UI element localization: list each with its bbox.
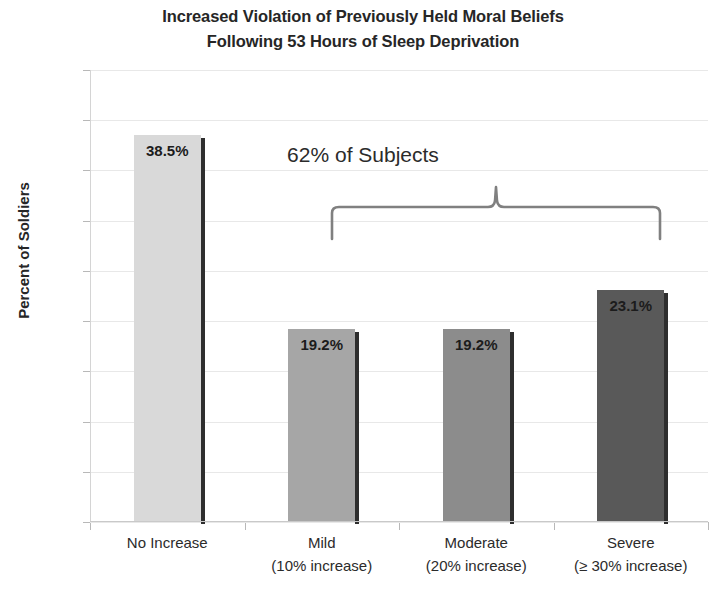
gridline [90,522,708,523]
bar-value-label: 19.2% [288,336,355,353]
bar-fill [597,290,664,522]
y-axis-tick-mark [83,321,90,322]
x-axis-category-label: Mild(10% increase) [245,531,400,577]
category-name: No Increase [127,534,208,551]
x-axis-tick-mark [554,522,555,530]
y-axis-tick-mark [83,522,90,523]
y-axis-tick-mark [83,221,90,222]
y-axis-tick-mark [83,271,90,272]
y-axis-line [90,70,91,522]
x-axis-category-label: Moderate(20% increase) [399,531,554,577]
category-name: Moderate [445,534,508,551]
bar-fill [443,329,510,522]
x-axis-tick-mark [245,522,246,530]
chart-title-line-1: Increased Violation of Previously Held M… [162,7,564,25]
y-axis-tick-mark [83,472,90,473]
annotation-label: 62% of Subjects [0,143,726,167]
bar[interactable]: 38.5% [134,135,201,522]
bar[interactable]: 19.2% [443,329,510,522]
gridline [90,120,708,121]
category-sublabel: (10% increase) [245,554,400,577]
bar-value-label: 38.5% [134,142,201,159]
x-axis-tick-mark [708,522,709,530]
x-axis-category-label: Severe(≥ 30% increase) [554,531,709,577]
bar-fill [134,135,201,522]
bar-fill [288,329,355,522]
bar-shadow [201,138,205,524]
y-axis-tick-mark [83,422,90,423]
bar-value-label: 23.1% [597,297,664,314]
bar-shadow [664,293,668,524]
y-axis-tick-mark [83,70,90,71]
bar-value-label: 19.2% [443,336,510,353]
category-sublabel: (≥ 30% increase) [554,554,709,577]
category-name: Severe [607,534,655,551]
category-sublabel: (20% increase) [399,554,554,577]
plot-area: 38.5%19.2%19.2%23.1% [90,70,708,522]
x-axis-tick-mark [399,522,400,530]
gridline [90,70,708,71]
y-axis-tick-mark [83,120,90,121]
y-axis-tick-mark [83,371,90,372]
category-name: Mild [308,534,336,551]
bar-shadow [355,332,359,524]
x-axis-tick-mark [90,522,91,530]
chart-container: Increased Violation of Previously Held M… [0,0,726,593]
chart-title: Increased Violation of Previously Held M… [0,4,726,54]
chart-title-line-2: Following 53 Hours of Sleep Deprivation [0,29,726,54]
x-axis-category-label: No Increase [90,531,245,554]
y-axis-title: Percent of Soldiers [15,166,32,336]
bar[interactable]: 19.2% [288,329,355,522]
y-axis-tick-mark [83,170,90,171]
x-axis-line [90,521,708,522]
bar-shadow [510,332,514,524]
bar[interactable]: 23.1% [597,290,664,522]
